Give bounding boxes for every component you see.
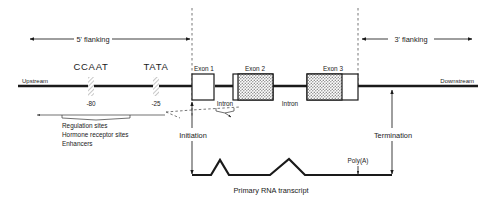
rna-transcript-caption: Primary RNA transcript	[233, 186, 308, 195]
ccaat-position-label: -80	[86, 100, 96, 107]
exon-3-label: Exon 3	[323, 65, 343, 72]
initiation-label: Initiation	[179, 131, 207, 140]
tata-to-initiation-dashed-connector	[166, 107, 240, 118]
tata-label: TATA	[144, 61, 169, 72]
exon-3-coding-region	[307, 74, 342, 100]
intron-1-label: Intron	[217, 100, 234, 107]
exon-1-label: Exon 1	[194, 65, 214, 72]
regulation-sites-line3: Enhancers	[62, 140, 93, 147]
termination-label: Termination	[374, 131, 412, 140]
exon-2-group: Exon 2	[233, 65, 273, 100]
three-prime-flanking-label: 3' flanking	[394, 35, 427, 44]
three-prime-flanking-group: 3' flanking	[362, 35, 472, 44]
tata-marker	[153, 77, 159, 96]
tata-box-group: TATA -25	[144, 61, 169, 107]
tata-position-label: -25	[151, 100, 161, 107]
intron-1-pointer	[225, 113, 231, 117]
upstream-label: Upstream	[22, 78, 48, 84]
regulation-sites-line2: Hormone receptor sites	[62, 131, 128, 139]
regulation-sites-line1: Regulation sites	[62, 122, 107, 130]
primary-rna-transcript-group: Poly(A) Primary RNA transcript	[192, 157, 392, 195]
exon-2-label: Exon 2	[245, 65, 265, 72]
five-prime-flanking-group: 5' flanking	[30, 35, 190, 44]
intron-2-label: Intron	[282, 100, 299, 107]
downstream-label: Downstream	[440, 78, 474, 84]
ccaat-marker	[88, 77, 94, 96]
ccaat-label: CCAAT	[74, 61, 109, 72]
exon-1-group: Exon 1	[192, 65, 214, 100]
exon-2-coding-region	[238, 74, 273, 100]
five-prime-flanking-label: 5' flanking	[76, 35, 109, 44]
regulation-brace	[62, 115, 130, 120]
intron-1-brace	[216, 108, 234, 113]
gene-structure-diagram: 5' flanking 3' flanking Upstream Downstr…	[0, 0, 496, 205]
exon-1-box	[192, 74, 214, 100]
ccaat-box-group: CCAAT -80	[74, 61, 109, 107]
gene-diagram-canvas: 5' flanking 3' flanking Upstream Downstr…	[0, 0, 496, 205]
termination-group: Termination	[368, 90, 418, 174]
poly-a-label: Poly(A)	[348, 157, 369, 165]
initiation-group: Initiation	[172, 102, 214, 174]
exon-3-group: Exon 3	[307, 65, 358, 100]
